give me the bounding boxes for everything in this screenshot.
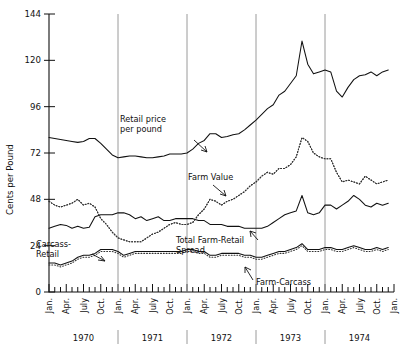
farm-carcass-label: Farm-Carcass [245,267,311,287]
series-group [49,41,388,267]
y-tick-label-144: 144 [25,9,41,19]
series-2 [49,195,388,228]
y-tick-label-72: 72 [30,148,41,158]
series-4 [49,246,388,267]
x-tick-label-27: Apr. [199,298,209,314]
total-spread-label-leader [250,231,258,240]
retail-price-label-line2: per pound [120,124,162,134]
farm-carcass-label-leader [245,267,253,280]
year-label-1970: 1970 [73,333,94,343]
annotation-group: Retail priceper poundFarm ValueTotal Far… [36,114,311,287]
year-label-1971: 1971 [142,333,163,343]
axis-lines [49,14,394,292]
x-tick-label-15: Apr. [130,298,140,314]
y-tick-label-48: 48 [30,194,41,204]
y-tick-label-0: 0 [36,287,41,297]
x-tick-label-0: Jan. [44,298,54,314]
retail-price-label-line1: Retail price [120,114,166,124]
x-tick-label-33: Oct. [234,298,244,315]
y-tick-label-120: 120 [25,55,41,65]
x-tick-label-51: Apr. [337,298,347,314]
chart-canvas: 024487296120144 19701971197219731974Jan.… [0,0,405,346]
x-tick-label-60: Jan. [389,298,399,314]
total-spread-label-line1: Total Farm-Retail [175,235,244,245]
year-label-1972: 1972 [211,333,232,343]
x-tick-label-24: Jan. [182,298,192,314]
chart-figure: 024487296120144 19701971197219731974Jan.… [0,0,405,346]
x-tick-label-54: July [355,298,365,314]
carcass-retail-label-line2: Retail [36,249,59,259]
x-tick-label-21: Oct. [165,298,175,315]
farm-value-label-line1: Farm Value [188,172,233,182]
total-spread-label: Total Farm-RetailSpread [175,231,258,255]
farm-carcass-label-line1: Farm-Carcass [256,277,311,287]
x-tick-label-57: Oct. [372,298,382,315]
carcass-retail-label-line1: Carcass- [36,239,71,249]
year-label-1974: 1974 [349,333,370,343]
total-spread-label-line2: Spread [176,245,205,255]
x-tick-label-36: Jan. [251,298,261,314]
x-tick-label-45: Oct. [303,298,313,315]
x-tick-label-group: 19701971197219731974Jan.Apr.JulyOct.Jan.… [44,298,399,343]
x-tick-label-18: July [148,298,158,314]
farm-value-label-leader [213,185,226,196]
carcass-retail-label: Carcass-Retail [36,239,105,261]
y-axis-title: Cents per Pound [5,144,15,215]
x-tick-label-9: Oct. [96,298,106,315]
farm-value-label: Farm Value [188,172,233,196]
x-tick-label-6: July [79,298,89,314]
carcass-retail-label-leader [92,254,105,261]
series-0 [49,41,388,158]
y-tick-label-96: 96 [30,102,41,112]
axis-group: 024487296120144 [25,9,394,297]
x-tick-label-42: July [286,298,296,314]
series-3 [49,244,388,265]
x-tick-label-39: Apr. [268,298,278,314]
year-label-1973: 1973 [280,333,301,343]
retail-price-label: Retail priceper pound [120,114,207,152]
x-tick-label-30: July [217,298,227,314]
x-tick-label-12: Jan. [113,298,123,314]
x-tick-label-3: Apr. [61,298,71,314]
x-tick-label-48: Jan. [320,298,330,314]
